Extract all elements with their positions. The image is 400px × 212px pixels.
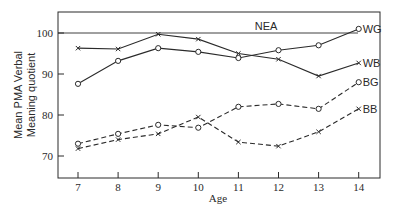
x-tick-label: 7 <box>75 181 81 193</box>
y-tick-label: 90 <box>42 68 54 80</box>
circle-marker-icon <box>116 58 121 63</box>
series-bb: BB <box>76 103 378 151</box>
circle-marker-icon <box>116 131 121 136</box>
circle-marker-icon <box>196 49 201 54</box>
circle-marker-icon <box>316 106 321 111</box>
series-label: WG <box>363 23 382 35</box>
y-axis: 708090100 <box>37 27 65 162</box>
series-wg: WG <box>75 23 381 87</box>
circle-marker-icon <box>316 43 321 48</box>
x-tick-label: 11 <box>233 181 244 193</box>
circle-marker-icon <box>75 81 80 86</box>
series-label: WB <box>363 57 381 69</box>
x-axis-label: Age <box>209 192 227 204</box>
circle-marker-icon <box>276 101 281 106</box>
x-tick-label: 10 <box>193 181 205 193</box>
x-tick-label: 12 <box>273 181 284 193</box>
x-tick-label: 14 <box>353 181 365 193</box>
y-axis-label-line-2: Meaning quotient <box>25 53 37 137</box>
circle-marker-icon <box>276 48 281 53</box>
circle-marker-icon <box>156 46 161 51</box>
nea-label: NEA <box>255 20 278 32</box>
circle-marker-icon <box>75 141 80 146</box>
series-line <box>78 109 359 149</box>
y-tick-label: 80 <box>42 109 54 121</box>
circle-marker-icon <box>196 125 201 130</box>
circle-marker-icon <box>236 104 241 109</box>
cross-marker-icon <box>236 140 240 144</box>
x-axis: 7891011121314 <box>75 172 364 193</box>
cross-marker-icon <box>357 107 361 111</box>
x-tick-label: 13 <box>313 181 325 193</box>
circle-marker-icon <box>236 55 241 60</box>
x-tick-label: 8 <box>115 181 121 193</box>
cross-marker-icon <box>316 130 320 134</box>
y-axis-label-line-1: Mean PMA Verbal <box>12 51 24 139</box>
series-label: BG <box>363 76 379 88</box>
circle-marker-icon <box>156 122 161 127</box>
plot-frame <box>58 12 380 178</box>
y-axis-label: Mean PMA Verbal Meaning quotient <box>12 51 37 139</box>
y-tick-label: 70 <box>42 150 54 162</box>
series-label: BB <box>363 103 378 115</box>
series-lines: WGWBBGBB <box>75 23 381 151</box>
x-tick-label: 9 <box>155 181 161 193</box>
nea-reference-line: NEA <box>58 20 358 33</box>
circle-marker-icon <box>356 80 361 85</box>
line-chart: 708090100 7891011121314 NEA WGWBBGBB Age… <box>0 0 400 212</box>
series-bg: BG <box>75 76 378 146</box>
circle-marker-icon <box>356 26 361 31</box>
y-tick-label: 100 <box>37 27 54 39</box>
cross-marker-icon <box>196 115 200 119</box>
